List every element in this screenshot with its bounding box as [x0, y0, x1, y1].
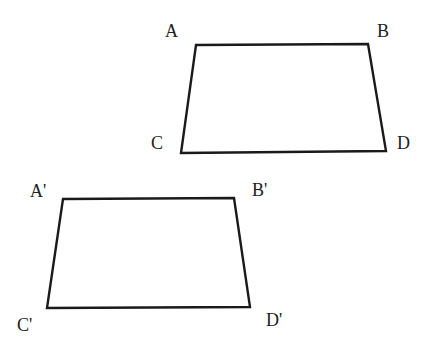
label-b: B — [377, 21, 389, 41]
label-d: D — [397, 133, 410, 153]
label-d-prime: D' — [266, 310, 282, 330]
quadrilateral-abcd-prime — [47, 198, 250, 308]
label-c: C — [151, 133, 163, 153]
shape-abcd-prime: A' B' C' D' — [17, 180, 282, 335]
shape-abcd: A B C D — [151, 21, 410, 153]
diagram-canvas: A B C D A' B' C' D' — [0, 0, 434, 346]
label-b-prime: B' — [252, 180, 267, 200]
label-a-prime: A' — [30, 181, 46, 201]
label-a: A — [165, 21, 178, 41]
quadrilateral-abcd — [181, 44, 386, 153]
label-c-prime: C' — [17, 315, 32, 335]
